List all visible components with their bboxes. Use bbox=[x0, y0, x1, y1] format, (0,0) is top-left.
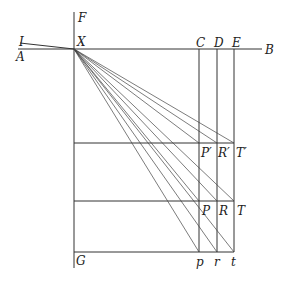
ray-X-T1 bbox=[74, 49, 234, 143]
label-T-prime: T′ bbox=[236, 146, 247, 160]
ray-X-T bbox=[74, 49, 234, 201]
ray-X-r bbox=[74, 49, 217, 252]
ray-X-p bbox=[74, 49, 199, 252]
label-P: P bbox=[201, 204, 211, 218]
label-F: F bbox=[77, 11, 87, 25]
label-I: I bbox=[18, 35, 24, 49]
ray-X-P bbox=[74, 49, 199, 201]
ray-X-P1 bbox=[74, 49, 199, 143]
ray-X-R bbox=[74, 49, 217, 201]
label-X: X bbox=[76, 35, 86, 49]
label-B: B bbox=[264, 43, 274, 57]
label-t: t bbox=[231, 255, 236, 269]
label-A: A bbox=[15, 50, 25, 64]
label-G: G bbox=[76, 254, 86, 268]
line-IX bbox=[20, 43, 74, 49]
label-P-prime: P′ bbox=[200, 146, 212, 160]
ray-X-R1 bbox=[74, 49, 217, 143]
perspective-diagram: F I A X B C D E P′ R′ T′ P R T G p r t bbox=[0, 0, 288, 284]
label-C: C bbox=[196, 36, 205, 50]
label-p: p bbox=[196, 255, 204, 269]
label-E: E bbox=[231, 36, 241, 50]
label-R-prime: R′ bbox=[217, 146, 230, 160]
label-D: D bbox=[213, 36, 224, 50]
label-r: r bbox=[214, 255, 221, 269]
label-T: T bbox=[237, 204, 246, 218]
label-R: R bbox=[218, 204, 228, 218]
